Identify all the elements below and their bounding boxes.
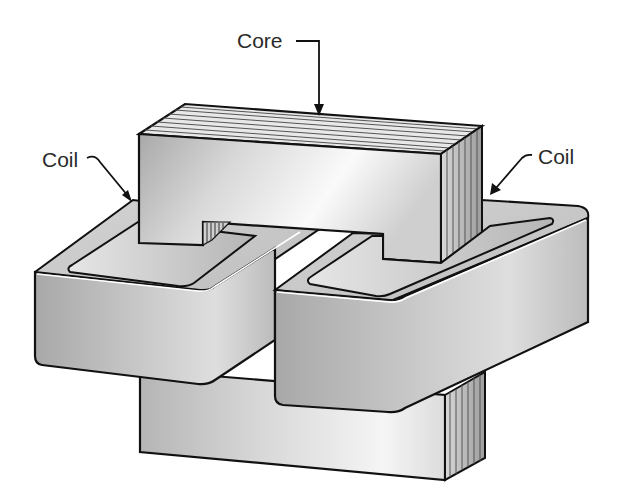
coil-left-leader-arrow-icon (87, 157, 132, 202)
core-top-yoke (139, 104, 482, 263)
transformer-diagram (0, 0, 619, 500)
label-coil-left: Coil (42, 149, 78, 170)
label-coil-right: Coil (538, 146, 574, 167)
label-core: Core (237, 30, 283, 51)
core-leader-arrow-icon (296, 41, 324, 116)
coil-right-leader-arrow-icon (490, 155, 532, 195)
